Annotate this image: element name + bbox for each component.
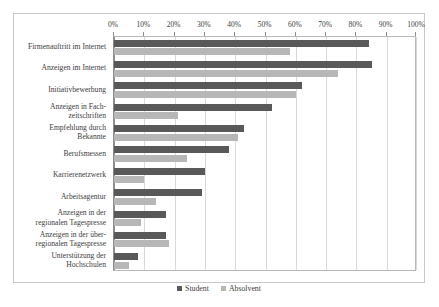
bar-student <box>114 146 229 153</box>
bar-row <box>114 80 415 101</box>
legend-entry-student[interactable]: Student <box>177 284 209 293</box>
x-tick-label-80pct: 80% <box>349 18 363 32</box>
legend-entry-absolvent[interactable]: Absolvent <box>221 284 261 293</box>
bar-rows <box>114 37 415 270</box>
y-category-label-line: regionalen Tagespresse <box>10 239 106 248</box>
x-tick-label-100pct: 100% <box>407 18 425 32</box>
bar-row <box>114 208 415 229</box>
x-tick-label-10pct: 10% <box>136 18 150 32</box>
x-tick-label-0pct: 0% <box>108 18 118 32</box>
x-tick-label-70pct: 70% <box>318 18 332 32</box>
legend-swatch-icon <box>177 286 182 291</box>
y-category-label-line: Initiativbewerbung <box>10 85 106 94</box>
y-category-label-line: Firmenauftritt im Internet <box>10 42 106 51</box>
bar-absolvent <box>114 134 238 141</box>
x-tick-label-30pct: 30% <box>197 18 211 32</box>
y-category-label: Arbeitsagentur <box>10 192 106 201</box>
y-category-label: Anzeigen in der über-regionalen Tagespre… <box>10 230 106 248</box>
bar-student <box>114 61 372 68</box>
y-category-label: Anzeigen in Fach-zeitschriften <box>10 102 106 120</box>
bar-row <box>114 229 415 250</box>
x-tick-label-40pct: 40% <box>227 18 241 32</box>
y-category-label-line: Anzeigen im Internet <box>10 63 106 72</box>
bar-row <box>114 187 415 208</box>
y-category-label-line: Karrierenetzwerk <box>10 170 106 179</box>
legend-label: Student <box>185 284 209 293</box>
y-axis-category-labels: Firmenauftritt im InternetAnzeigen im In… <box>14 36 110 271</box>
y-category-label-line: Unterstützung der <box>10 251 106 260</box>
bar-absolvent <box>114 219 141 226</box>
y-category-label-line: Empfehlung durch <box>10 123 106 132</box>
x-tick-label-60pct: 60% <box>288 18 302 32</box>
y-category-label-line: Anzeigen in der <box>10 208 106 217</box>
y-category-label: Firmenauftritt im Internet <box>10 42 106 51</box>
bar-student <box>114 211 166 218</box>
bar-row <box>114 251 415 272</box>
x-tick-label-50pct: 50% <box>258 18 272 32</box>
y-category-label-line: Arbeitsagentur <box>10 192 106 201</box>
y-category-label: Berufsmessen <box>10 149 106 158</box>
y-category-label: Empfehlung durchBekannte <box>10 123 106 141</box>
y-category-label-line: zeitschriften <box>10 111 106 120</box>
bar-student <box>114 104 272 111</box>
x-tick-label-90pct: 90% <box>379 18 393 32</box>
plot-area <box>113 36 416 271</box>
x-axis-tick-labels: 0%10%20%30%40%50%60%70%80%90%100% <box>14 18 424 32</box>
x-tick-label-20pct: 20% <box>167 18 181 32</box>
y-category-label: Unterstützung derHochschulen <box>10 251 106 269</box>
y-category-label-line: Bekannte <box>10 132 106 141</box>
bar-student <box>114 189 202 196</box>
y-category-label-line: Anzeigen in Fach- <box>10 102 106 111</box>
bar-absolvent <box>114 262 129 269</box>
bar-absolvent <box>114 155 187 162</box>
bar-student <box>114 253 138 260</box>
bar-row <box>114 122 415 143</box>
legend-label: Absolvent <box>229 284 261 293</box>
chart-legend: StudentAbsolvent <box>14 280 424 296</box>
y-category-label: Initiativbewerbung <box>10 85 106 94</box>
y-category-label: Anzeigen in derregionalen Tagespresse <box>10 208 106 226</box>
y-category-label-line: Anzeigen in der über- <box>10 230 106 239</box>
bar-absolvent <box>114 176 144 183</box>
bar-absolvent <box>114 70 338 77</box>
gridline-100pct <box>416 37 417 270</box>
y-category-label-line: Berufsmessen <box>10 149 106 158</box>
bar-student <box>114 168 205 175</box>
bar-absolvent <box>114 240 169 247</box>
bar-absolvent <box>114 112 178 119</box>
bar-student <box>114 125 244 132</box>
bar-row <box>114 101 415 122</box>
bar-student <box>114 82 302 89</box>
y-category-label: Karrierenetzwerk <box>10 170 106 179</box>
bar-row <box>114 144 415 165</box>
chart-figure: 0%10%20%30%40%50%60%70%80%90%100% Firmen… <box>13 13 425 283</box>
bar-row <box>114 37 415 58</box>
bar-absolvent <box>114 198 156 205</box>
bar-absolvent <box>114 91 296 98</box>
bar-student <box>114 232 166 239</box>
y-category-label: Anzeigen im Internet <box>10 63 106 72</box>
y-category-label-line: regionalen Tagespresse <box>10 218 106 227</box>
bar-student <box>114 40 369 47</box>
bar-absolvent <box>114 48 290 55</box>
bar-row <box>114 165 415 186</box>
y-category-label-line: Hochschulen <box>10 260 106 269</box>
bar-row <box>114 58 415 79</box>
legend-swatch-icon <box>221 286 226 291</box>
